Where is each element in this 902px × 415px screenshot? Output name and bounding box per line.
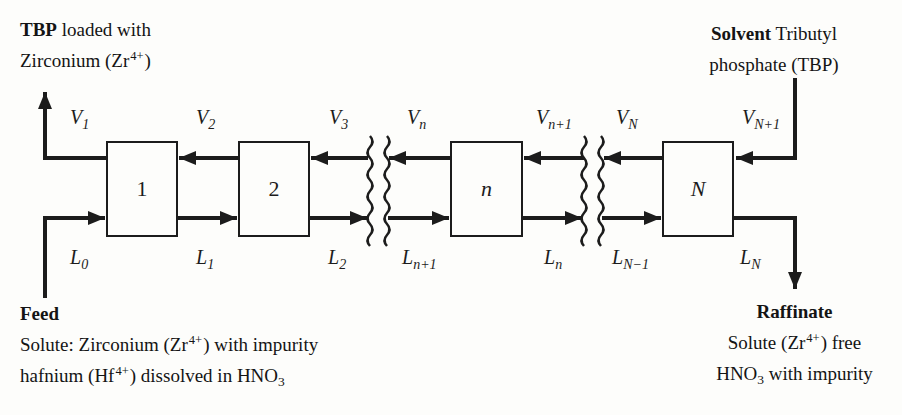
- feed-label: Feed Solute: Zirconium (Zr4+) with impur…: [20, 298, 318, 391]
- feed-title: Feed: [20, 298, 318, 329]
- extraction-cascade-diagram: 1 2 n N V1 V2 V3 Vn Vn+1 VN VN+1 L0 L1 L…: [0, 0, 902, 415]
- stream-label-vn: Vn: [407, 106, 426, 129]
- stream-label-v1: V1: [70, 106, 89, 129]
- stream-label-v3: V3: [329, 106, 348, 129]
- cascade-break-wavy-2a: [582, 136, 587, 246]
- stream-label-l0: L0: [70, 246, 88, 269]
- stream-label-lN: LN: [740, 246, 760, 269]
- stage-label-1: 1: [137, 176, 148, 202]
- cascade-break-wavy-2b: [599, 136, 604, 246]
- feed-line3: hafnium (Hf4+) dissolved in HNO3: [20, 360, 318, 391]
- solvent-line2: phosphate (TBP): [690, 49, 858, 80]
- stage-label-n: n: [481, 176, 492, 202]
- stage-box-n: n: [450, 141, 523, 237]
- solvent-in-label: Solvent Tributyl phosphate (TBP): [690, 18, 858, 80]
- stream-label-vN: VN: [616, 106, 638, 129]
- stream-label-ln1: Ln+1: [402, 246, 437, 269]
- tbp-out-line1: TBP loaded with: [20, 14, 151, 45]
- raffinate-title: Raffinate: [692, 296, 897, 327]
- raffinate-line2: Solute (Zr4+) free: [692, 327, 897, 358]
- stream-label-vN1: VN+1: [742, 106, 780, 129]
- stream-label-v2: V2: [196, 106, 215, 129]
- stream-label-l2: L2: [328, 246, 346, 269]
- stream-label-lN1: LN−1: [612, 246, 649, 269]
- stage-box-N: N: [662, 141, 734, 237]
- stream-label-l1: L1: [196, 246, 214, 269]
- stream-label-ln: Ln: [544, 246, 562, 269]
- tbp-out-label: TBP loaded with Zirconium (Zr4+): [20, 14, 151, 76]
- stream-label-vn1: Vn+1: [536, 106, 572, 129]
- feed-line2: Solute: Zirconium (Zr4+) with impurity: [20, 329, 318, 360]
- stage-label-2: 2: [269, 176, 280, 202]
- cascade-break-wavy-1a: [368, 136, 373, 246]
- stage-box-2: 2: [238, 141, 310, 237]
- cascade-break-wavy-1b: [385, 136, 390, 246]
- tbp-out-line2: Zirconium (Zr4+): [20, 45, 151, 76]
- raffinate-line3: HNO3 with impurity: [692, 358, 897, 389]
- stage-box-1: 1: [106, 141, 178, 237]
- stage-label-N: N: [691, 176, 706, 202]
- solvent-line1: Solvent Tributyl: [690, 18, 858, 49]
- raffinate-label: Raffinate Solute (Zr4+) free HNO3 with i…: [692, 296, 897, 389]
